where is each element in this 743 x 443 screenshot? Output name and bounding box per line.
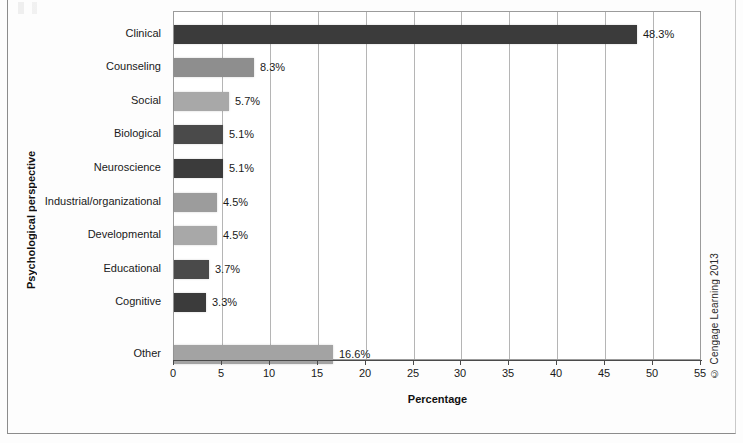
bar-value-label: 8.3% bbox=[260, 58, 285, 77]
bar[interactable] bbox=[174, 25, 637, 44]
x-tick-30 bbox=[460, 360, 461, 365]
x-tick-10 bbox=[269, 360, 270, 365]
bar[interactable] bbox=[174, 260, 209, 279]
bar[interactable] bbox=[174, 193, 217, 212]
x-tick-label: 40 bbox=[536, 367, 576, 379]
category-label: Developmental bbox=[0, 225, 167, 244]
bar[interactable] bbox=[174, 58, 254, 77]
bar-value-label: 4.5% bbox=[223, 193, 248, 212]
bar-row[interactable]: 3.3% bbox=[174, 293, 237, 312]
bar-row[interactable]: 4.5% bbox=[174, 226, 248, 245]
bar[interactable] bbox=[174, 226, 217, 245]
bar-row[interactable]: 5.1% bbox=[174, 125, 254, 144]
x-tick-label: 25 bbox=[393, 367, 433, 379]
bar-row[interactable]: 5.1% bbox=[174, 159, 254, 178]
bar-row[interactable]: 5.7% bbox=[174, 92, 260, 111]
x-tick-label: 45 bbox=[584, 367, 624, 379]
category-label: Neuroscience bbox=[0, 158, 167, 177]
figure-container: Psychological perspective ClinicalCounse… bbox=[0, 0, 743, 443]
category-label: Educational bbox=[0, 259, 167, 278]
x-tick-15 bbox=[317, 360, 318, 365]
plot-area: 48.3%8.3%5.7%5.1%5.1%4.5%4.5%3.7%3.3%16.… bbox=[173, 11, 701, 360]
bar[interactable] bbox=[174, 293, 206, 312]
category-label: Industrial/organizational bbox=[0, 192, 167, 211]
x-tick-label: 30 bbox=[440, 367, 480, 379]
x-tick-label: 0 bbox=[153, 367, 193, 379]
x-tick-label: 10 bbox=[249, 367, 289, 379]
copyright-notice: © Cengage Learning 2013 bbox=[709, 253, 720, 379]
x-tick-label: 50 bbox=[632, 367, 672, 379]
bar[interactable] bbox=[174, 345, 333, 364]
category-label: Biological bbox=[0, 124, 167, 143]
bar-row[interactable]: 16.6% bbox=[174, 345, 370, 364]
bar-value-label: 5.1% bbox=[229, 159, 254, 178]
bar-series: 48.3%8.3%5.7%5.1%5.1%4.5%4.5%3.7%3.3%16.… bbox=[174, 12, 700, 359]
bar[interactable] bbox=[174, 125, 223, 144]
x-tick-20 bbox=[365, 360, 366, 365]
x-tick-50 bbox=[652, 360, 653, 365]
x-tick-label: 15 bbox=[297, 367, 337, 379]
bar-value-label: 5.1% bbox=[229, 125, 254, 144]
x-tick-label: 20 bbox=[345, 367, 385, 379]
x-tick-0 bbox=[173, 360, 174, 365]
x-axis-line bbox=[173, 360, 702, 361]
category-label: Clinical bbox=[0, 24, 167, 43]
x-tick-label: 35 bbox=[488, 367, 528, 379]
x-tick-35 bbox=[508, 360, 509, 365]
bar[interactable] bbox=[174, 159, 223, 178]
bar-value-label: 4.5% bbox=[223, 226, 248, 245]
category-label: Cognitive bbox=[0, 292, 167, 311]
category-label-list: ClinicalCounselingSocialBiologicalNeuros… bbox=[0, 11, 167, 360]
x-axis-title: Percentage bbox=[173, 393, 702, 405]
x-tick-5 bbox=[221, 360, 222, 365]
bar-value-label: 3.3% bbox=[212, 293, 237, 312]
x-tick-45 bbox=[604, 360, 605, 365]
category-label: Counseling bbox=[0, 57, 167, 76]
bar-row[interactable]: 8.3% bbox=[174, 58, 285, 77]
bar-value-label: 48.3% bbox=[643, 25, 674, 44]
x-tick-40 bbox=[556, 360, 557, 365]
x-tick-label: 5 bbox=[201, 367, 241, 379]
bar[interactable] bbox=[174, 92, 229, 111]
x-tick-25 bbox=[413, 360, 414, 365]
category-label: Other bbox=[0, 344, 167, 363]
bar-row[interactable]: 3.7% bbox=[174, 260, 240, 279]
bar-value-label: 5.7% bbox=[235, 92, 260, 111]
category-label: Social bbox=[0, 91, 167, 110]
bar-row[interactable]: 4.5% bbox=[174, 193, 248, 212]
bar-value-label: 3.7% bbox=[215, 260, 240, 279]
bar-row[interactable]: 48.3% bbox=[174, 25, 674, 44]
x-tick-55 bbox=[700, 360, 701, 365]
